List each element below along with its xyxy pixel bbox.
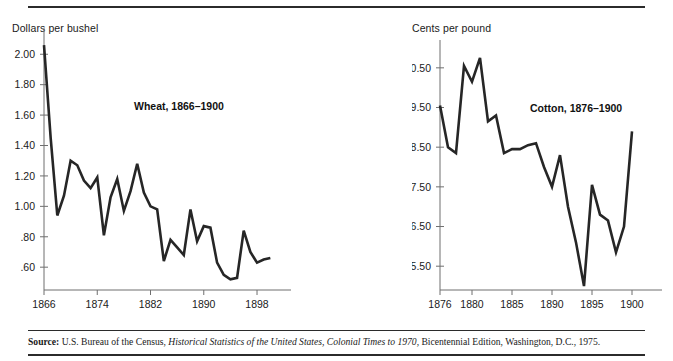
x-tick-label: 1885: [500, 298, 524, 310]
chart-plot-cotton: 10.509.508.507.506.505.50187618801885189…: [412, 22, 667, 322]
y-tick-label: 6.50: [412, 220, 431, 232]
x-tick-label: 1876: [428, 298, 452, 310]
bottom-rule: [28, 354, 645, 356]
y-tick-label: .80: [20, 231, 35, 243]
x-tick-label: 1890: [192, 298, 216, 310]
top-rule: [28, 6, 645, 8]
y-tick-label: 1.40: [15, 139, 36, 151]
x-tick-label: 1880: [460, 298, 484, 310]
y-tick-label: .60: [20, 261, 35, 273]
y-tick-label: 1.20: [15, 170, 36, 182]
source-separator-rule: [28, 330, 645, 331]
x-tick-label: 1874: [86, 298, 110, 310]
y-tick-label: 8.50: [412, 141, 431, 153]
x-tick-label: 1866: [32, 298, 56, 310]
chart-panel-cotton: Cents per pound Cotton, 1876–1900 10.509…: [412, 22, 667, 322]
source-text-tail: , Bicentennial Edition, Washington, D.C.…: [417, 336, 600, 347]
source-text-lead: U.S. Bureau of the Census,: [59, 336, 168, 347]
y-tick-label: 1.60: [15, 109, 36, 121]
data-series-line: [440, 58, 632, 286]
figure-container: Dollars per bushel Wheat, 1866–1900 2.00…: [0, 0, 673, 361]
y-tick-label: 2.00: [15, 48, 36, 60]
x-tick-label: 1882: [139, 298, 163, 310]
y-tick-label: 1.00: [15, 200, 36, 212]
x-tick-label: 1890: [540, 298, 564, 310]
x-tick-label: 1898: [245, 298, 269, 310]
x-tick-label: 1900: [620, 298, 644, 310]
source-label: Source:: [28, 336, 59, 347]
y-tick-label: 1.80: [15, 78, 36, 90]
y-tick-label: 7.50: [412, 181, 431, 193]
y-tick-label: 10.50: [412, 62, 431, 74]
chart-plot-wheat: 2.001.801.601.401.201.00.80.601866187418…: [12, 22, 342, 322]
data-series-line: [44, 45, 270, 279]
source-title-italic: Historical Statistics of the United Stat…: [168, 336, 416, 347]
source-note: Source: U.S. Bureau of the Census, Histo…: [28, 336, 648, 348]
chart-panel-wheat: Dollars per bushel Wheat, 1866–1900 2.00…: [12, 22, 342, 322]
y-tick-label: 9.50: [412, 101, 431, 113]
y-tick-label: 5.50: [412, 260, 431, 272]
x-tick-label: 1895: [580, 298, 604, 310]
